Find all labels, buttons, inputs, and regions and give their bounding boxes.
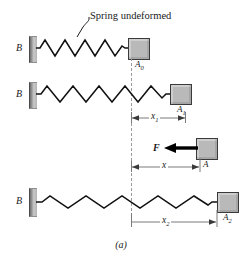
block-label-a2: A2	[223, 213, 232, 224]
spring-row1	[36, 38, 129, 58]
support-label-row2: B	[16, 89, 22, 99]
block-a2	[217, 192, 239, 213]
block-label-a0: A0	[135, 60, 144, 71]
dimension-line-x2	[131, 216, 218, 228]
spring-row2	[36, 84, 171, 104]
figure-canvas: Spring undeformed B A0 B A1 x1 A F	[0, 0, 242, 258]
block-a0	[128, 38, 150, 60]
dimension-label-x1: x1	[149, 112, 160, 123]
support-label-row3: B	[16, 196, 22, 206]
figure-caption: (a)	[0, 240, 242, 250]
annotation-leader-line	[72, 14, 96, 40]
dimension-label-x2: x2	[160, 216, 171, 227]
annotation-spring-undeformed: Spring undeformed	[90, 11, 171, 22]
block-a-force	[196, 138, 218, 160]
block-label-a: A	[203, 160, 209, 169]
support-label-row1: B	[16, 43, 22, 53]
block-a1	[170, 84, 192, 105]
dimension-label-x: x	[160, 161, 168, 171]
spring-row3	[36, 193, 218, 211]
force-label: F	[153, 143, 160, 153]
force-arrow	[164, 142, 198, 154]
